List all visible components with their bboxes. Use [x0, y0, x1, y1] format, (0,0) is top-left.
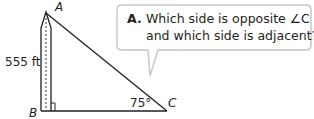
- vertex-label-c: C: [168, 97, 176, 109]
- monument-shape: [41, 12, 51, 111]
- height-label: 555 ft: [5, 56, 40, 68]
- callout-line1: Which side is opposite ∠C: [146, 10, 310, 27]
- angle-label: 75°: [130, 97, 151, 109]
- callout-indent: [127, 27, 146, 44]
- vertex-label-a: A: [55, 1, 63, 13]
- vertex-label-b: B: [29, 107, 37, 119]
- callout-prefix: A.: [127, 10, 146, 27]
- callout-line2: and which side is adjacent?: [146, 27, 314, 44]
- callout-text: A. Which side is opposite ∠C and which s…: [127, 10, 314, 44]
